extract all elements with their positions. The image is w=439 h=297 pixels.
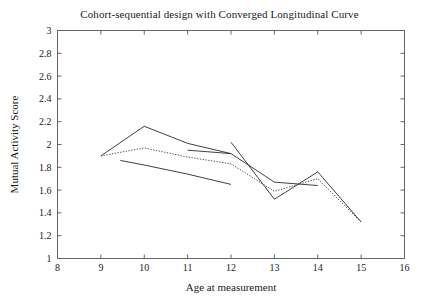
x-tick-label: 8 [55, 262, 60, 273]
y-tick-label: 2 [47, 139, 52, 150]
y-tick-label: 2.2 [39, 116, 52, 127]
series-layer [101, 126, 361, 222]
series-line-4 [101, 148, 361, 222]
chart-plot-svg: 891011121314151611.21.41.61.822.22.42.62… [0, 0, 439, 297]
y-tick-label: 1.2 [39, 230, 52, 241]
x-tick-label: 12 [226, 262, 236, 273]
x-tick-label: 11 [183, 262, 193, 273]
series-line-0 [101, 126, 231, 156]
x-tick-label: 10 [139, 262, 149, 273]
x-tick-label: 16 [400, 262, 410, 273]
y-tick-label: 2.4 [39, 93, 52, 104]
axes-layer [58, 31, 405, 259]
y-tick-label: 2.8 [39, 48, 52, 59]
y-tick-label: 1.8 [39, 162, 52, 173]
y-tick-label: 1.6 [39, 185, 52, 196]
series-line-2 [188, 150, 318, 185]
axis-labels-layer: 891011121314151611.21.41.61.822.22.42.62… [8, 25, 410, 293]
y-tick-label: 1 [47, 253, 52, 264]
x-tick-label: 9 [98, 262, 103, 273]
chart-container: Cohort-sequential design with Converged … [0, 0, 439, 297]
x-tick-label: 14 [313, 262, 323, 273]
series-line-3 [231, 142, 361, 222]
y-tick-label: 3 [47, 25, 52, 36]
y-tick-label: 2.6 [39, 71, 52, 82]
plot-frame [58, 31, 405, 259]
x-tick-label: 15 [356, 262, 366, 273]
y-tick-label: 1.4 [39, 207, 52, 218]
y-axis-title: Mutual Activity Score [8, 96, 20, 194]
x-tick-label: 13 [269, 262, 279, 273]
x-axis-title: Age at measurement [186, 281, 276, 293]
series-line-1 [120, 160, 231, 184]
